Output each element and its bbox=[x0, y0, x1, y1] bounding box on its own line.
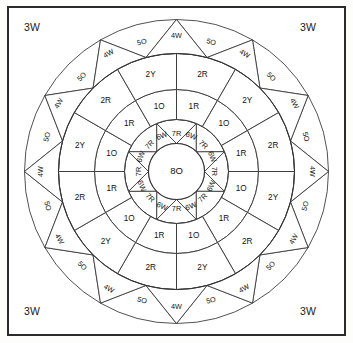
ring-1-label: 1R bbox=[219, 214, 230, 223]
ring-1-label: 1R bbox=[236, 149, 247, 158]
ring-3-sawtooth-inward-tooth bbox=[253, 40, 309, 96]
ring-1-label: 1O bbox=[218, 119, 229, 128]
ring-2-label: 2Y bbox=[101, 237, 112, 246]
ring-2-label: 2R bbox=[197, 70, 208, 79]
ring-3-sawtooth-label: 4W bbox=[171, 31, 182, 40]
ring-2-label: 2R bbox=[268, 141, 279, 150]
ring-1-label: 1R bbox=[154, 231, 165, 240]
concentric-circle-diagram: 6W6W6W6W6W6W6W6W7R7R7R7R7R7R7R7R1R1O1R1O… bbox=[0, 0, 353, 343]
ring-1-label: 1O bbox=[124, 214, 135, 223]
ring-2-label: 2R bbox=[101, 96, 112, 105]
corner-label-top-right: 3W bbox=[300, 21, 316, 33]
ring-3-sawtooth-inward-tooth bbox=[45, 248, 101, 304]
ring-3-sawtooth-inward-tooth bbox=[253, 248, 309, 304]
ring-2-label: 2R bbox=[75, 193, 86, 202]
ring-2-label: 2Y bbox=[146, 70, 157, 79]
ring-1-label: 1R bbox=[189, 102, 200, 111]
ring-1-label: 1O bbox=[188, 231, 199, 240]
ring-3-sawtooth-inward-tooth bbox=[45, 40, 101, 96]
ring-3-sawtooth-label: 4W bbox=[36, 166, 45, 177]
corner-label-bottom-left: 3W bbox=[24, 305, 40, 317]
ring-1-label: 1O bbox=[154, 102, 165, 111]
corner-label-top-left: 3W bbox=[24, 21, 40, 33]
ring-2-label: 2Y bbox=[75, 141, 86, 150]
ring-1-label: 1R bbox=[107, 184, 118, 193]
ring-2-label: 2Y bbox=[197, 263, 208, 272]
ring-1-label: 1O bbox=[106, 149, 117, 158]
ring-3-sawtooth-label: 4W bbox=[171, 302, 182, 311]
inner-triangle-ring-label: 7R bbox=[172, 129, 181, 138]
inner-triangle-ring-label: 7R bbox=[210, 167, 219, 176]
ring-2-label: 2Y bbox=[242, 96, 253, 105]
ring-3-sawtooth-label: 4W bbox=[308, 166, 317, 177]
corner-label-bottom-right: 3W bbox=[300, 305, 316, 317]
ring-1-label: 1O bbox=[236, 184, 247, 193]
inner-triangle-ring-label: 7R bbox=[172, 204, 181, 213]
ring-2-label: 2R bbox=[242, 237, 253, 246]
ring-1-label: 1R bbox=[124, 119, 135, 128]
ring-2-label: 2R bbox=[145, 263, 156, 272]
diagram-page: 6W6W6W6W6W6W6W6W7R7R7R7R7R7R7R7R1R1O1R1O… bbox=[0, 0, 353, 343]
ring-2-label: 2Y bbox=[268, 193, 279, 202]
center-label: 8O bbox=[170, 165, 183, 176]
inner-triangle-ring-label: 7R bbox=[134, 167, 143, 176]
